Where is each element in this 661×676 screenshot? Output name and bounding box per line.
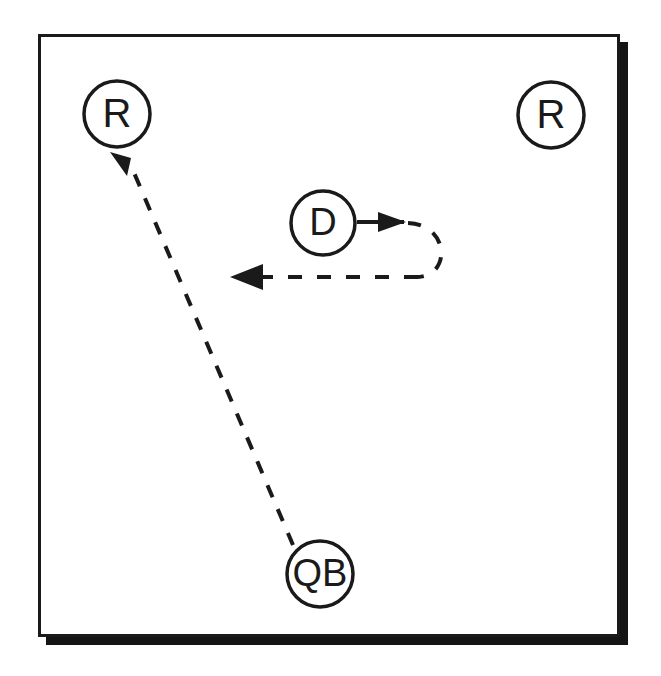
player-label-receiver-left: R xyxy=(103,91,132,135)
play-diagram-container: R R D QB xyxy=(0,0,661,676)
player-label-defender: D xyxy=(309,201,336,243)
player-quarterback[interactable]: QB xyxy=(287,541,353,607)
player-label-receiver-right: R xyxy=(537,92,566,136)
player-receiver-right[interactable]: R xyxy=(518,82,584,148)
play-diagram: R R D QB xyxy=(0,0,661,676)
player-label-quarterback: QB xyxy=(293,552,348,594)
player-defender[interactable]: D xyxy=(291,191,355,255)
player-receiver-left[interactable]: R xyxy=(84,81,150,147)
